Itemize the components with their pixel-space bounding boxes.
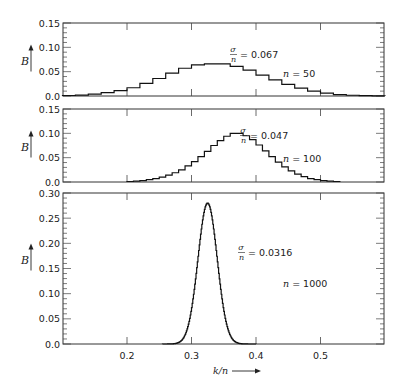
y-axis-label: B: [20, 141, 29, 154]
y-tick-label: 0.25: [39, 213, 60, 224]
y-tick-label: 0.05: [39, 152, 60, 163]
y-tick-label: 0.0: [45, 91, 60, 102]
y-tick-label: 0.15: [39, 104, 60, 115]
y-tick-label: 0.20: [39, 238, 60, 249]
sample-size-label: n = 1000: [283, 278, 327, 289]
y-tick-label: 0.30: [39, 188, 60, 199]
y-tick-label: 0.0: [45, 177, 60, 188]
histogram-series: [63, 64, 386, 96]
y-tick-label: 0.05: [39, 66, 60, 77]
y-tick-label: 0.15: [39, 18, 60, 29]
y-axis-label: B: [20, 254, 29, 267]
y-axis-label: B: [20, 55, 29, 68]
n-symbol: n: [231, 55, 236, 64]
binomial-distribution-chart: 0.00.050.100.15Bσn= 0.067n = 500.00.050.…: [0, 0, 404, 383]
sigma-symbol: σ: [240, 126, 246, 135]
n-symbol: n: [241, 136, 246, 145]
panel-1: 0.00.050.100.15Bσn= 0.067n = 50: [20, 18, 385, 102]
plot-frame: [63, 23, 384, 96]
y-tick-label: 0.10: [39, 288, 60, 299]
x-tick-label: 0.4: [248, 350, 263, 361]
y-tick-label: 0.15: [39, 263, 60, 274]
sigma-symbol: σ: [238, 243, 244, 252]
y-tick-label: 0.10: [39, 42, 60, 53]
y-tick-label: 0.05: [39, 313, 60, 324]
x-tick-label: 0.2: [119, 350, 134, 361]
histogram-series: [162, 203, 256, 344]
y-tick-label: 0.0: [45, 339, 60, 350]
sigma-over-n-value: = 0.047: [250, 130, 288, 141]
sample-size-label: n = 50: [283, 68, 315, 79]
x-tick-label: 0.3: [184, 350, 199, 361]
x-tick-label: 0.5: [313, 350, 328, 361]
panel-3: 0.00.050.100.150.200.250.30Bσn= 0.0316n …: [20, 188, 384, 377]
y-tick-label: 0.10: [39, 128, 60, 139]
sigma-symbol: σ: [230, 45, 236, 54]
n-symbol: n: [239, 253, 244, 262]
sample-size-label: n = 100: [283, 153, 321, 164]
panel-2: 0.00.050.100.15Bσn= 0.047n = 100: [20, 104, 384, 188]
sigma-over-n-value: = 0.0316: [248, 247, 292, 258]
plot-frame: [63, 193, 384, 344]
plot-frame: [63, 109, 384, 182]
sigma-over-n-value: = 0.067: [240, 49, 278, 60]
x-axis-label: k/n: [213, 365, 228, 376]
